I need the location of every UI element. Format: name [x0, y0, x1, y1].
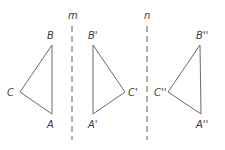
- triangle-abc-double-prime-shape: [168, 45, 201, 114]
- vertex-b-label: B: [47, 30, 54, 41]
- triangle-abc-prime-shape: [93, 45, 125, 114]
- triangle-abc: B C A: [7, 30, 54, 130]
- triangle-abc-shape: [20, 45, 52, 114]
- vertex-c-label: C: [7, 87, 14, 98]
- reflection-diagram: m n B C A B' C' A' B'' C'' A'': [0, 0, 225, 150]
- vertex-a-double-prime-label: A'': [195, 119, 208, 130]
- axis-n-label: n: [144, 10, 150, 21]
- axis-m-label: m: [68, 10, 78, 21]
- triangle-abc-double-prime: B'' C'' A'': [154, 30, 208, 130]
- axis-n: n: [144, 10, 150, 140]
- triangle-abc-prime: B' C' A': [87, 30, 138, 130]
- vertex-b-prime-label: B': [88, 30, 98, 41]
- axis-m: m: [68, 10, 78, 140]
- vertex-b-double-prime-label: B'': [196, 30, 208, 41]
- vertex-a-prime-label: A': [87, 119, 98, 130]
- vertex-c-double-prime-label: C'': [154, 87, 166, 98]
- vertex-a-label: A: [46, 119, 54, 130]
- vertex-c-prime-label: C': [128, 87, 138, 98]
